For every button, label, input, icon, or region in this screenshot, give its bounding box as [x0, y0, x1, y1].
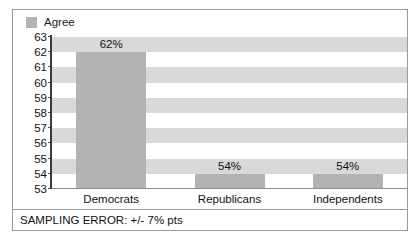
y-tick-57: 57 [13, 122, 47, 134]
bar-value-independents: 54% [293, 160, 403, 173]
y-tick-62: 62 [13, 46, 47, 58]
legend-label-agree: Agree [44, 17, 75, 28]
plot-wrapper: 63 62 61 60 59 58 57 56 55 54 53 62%54%5… [13, 37, 407, 189]
y-tick-53: 53 [13, 183, 47, 195]
x-label-republicans: Republicans [170, 192, 288, 206]
x-axis: Democrats Republicans Independents [52, 192, 407, 208]
y-tick-54: 54 [13, 168, 47, 180]
bar-independents [313, 174, 383, 189]
footer-divider [13, 209, 407, 210]
legend-swatch-agree [26, 17, 37, 28]
y-tick-60: 60 [13, 77, 47, 89]
x-label-independents: Independents [289, 192, 407, 206]
chart-container: Agree 63 62 61 60 59 58 57 56 55 54 53 6… [12, 9, 408, 231]
y-axis: 63 62 61 60 59 58 57 56 55 54 53 [13, 37, 47, 189]
y-tick-58: 58 [13, 107, 47, 119]
x-label-democrats: Democrats [52, 192, 170, 206]
chart-legend: Agree [26, 17, 75, 28]
y-tick-56: 56 [13, 137, 47, 149]
sampling-error-note: SAMPLING ERROR: +/- 7% pts [20, 213, 183, 227]
y-tick-63: 63 [13, 31, 47, 43]
bar-value-democrats: 62% [56, 38, 166, 51]
bar-republicans [195, 174, 265, 189]
x-axis-line [52, 188, 407, 189]
y-tick-59: 59 [13, 92, 47, 104]
bar-democrats [76, 52, 146, 189]
y-tick-61: 61 [13, 61, 47, 73]
y-tick-55: 55 [13, 153, 47, 165]
bar-value-republicans: 54% [175, 160, 285, 173]
